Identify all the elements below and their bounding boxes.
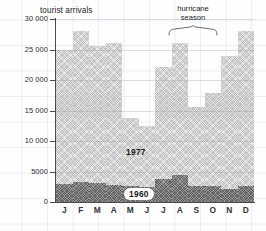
x-tick-label-J-5: J [139,205,156,215]
x-tick-label-D-11: D [238,205,255,215]
x-tick-label-N-10: N [221,205,238,215]
y-tick-label-25000: 25 000 [4,46,48,53]
hurricane-season-annotation: hurricane season [165,5,221,22]
x-tick-label-J-6: J [155,205,172,215]
y-tick-label-30000: 30 000 [4,15,48,22]
y-tick-label-0: 0 [4,198,48,205]
series-label-1977: 1977 [126,147,146,157]
y-axis-labels: 30 000 25 000 20 000 15 000 10 000 5000 … [0,0,48,231]
x-tick-label-M-2: M [89,205,106,215]
plot-area [56,19,254,202]
hurricane-season-brace-icon [168,25,218,36]
y-tick-label-5000: 5000 [4,168,48,175]
bar-1960-O [205,186,222,202]
bar-1960-N [221,189,238,202]
bar-series-1960 [56,19,254,202]
bar-1960-F [73,182,90,202]
bar-1960-M [89,183,106,202]
y-tick-label-10000: 10 000 [4,137,48,144]
x-tick-label-S-8: S [188,205,205,215]
bar-1960-A [106,185,123,202]
x-tick-label-J-0: J [56,205,73,215]
x-tick-label-A-3: A [106,205,123,215]
y-tick-label-20000: 20 000 [4,76,48,83]
x-tick-label-M-4: M [122,205,139,215]
bar-1960-J [56,184,73,202]
bar-1960-J [155,179,172,202]
chart-container: tourist arrivals 30 000 25 000 20 000 15… [0,0,266,231]
bar-1960-S [188,186,205,202]
x-tick-label-O-9: O [205,205,222,215]
x-tick-label-A-7: A [172,205,189,215]
hurricane-line-2: season [165,14,221,23]
x-axis-labels: JFMAMJJASOND [56,205,254,221]
y-tick-label-15000: 15 000 [4,107,48,114]
x-tick-label-F-1: F [73,205,90,215]
series-label-1960: 1960 [124,188,154,200]
bar-1960-A [172,175,189,202]
bar-1960-D [238,186,255,202]
